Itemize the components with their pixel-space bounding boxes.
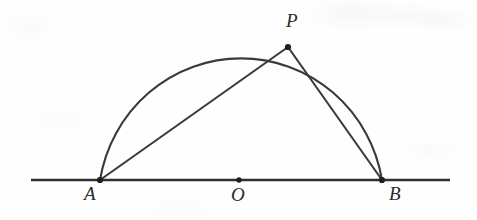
point-label-o: O <box>231 185 245 204</box>
point-label-a: A <box>84 184 96 203</box>
point-marker-o <box>236 177 241 182</box>
point-marker-a <box>97 177 103 183</box>
geometry-figure: A O B P <box>0 0 477 220</box>
point-marker-p <box>285 44 291 50</box>
point-label-b: B <box>389 184 401 203</box>
point-marker-b <box>379 177 385 183</box>
point-label-p: P <box>286 11 298 30</box>
chord-pb <box>288 47 382 180</box>
